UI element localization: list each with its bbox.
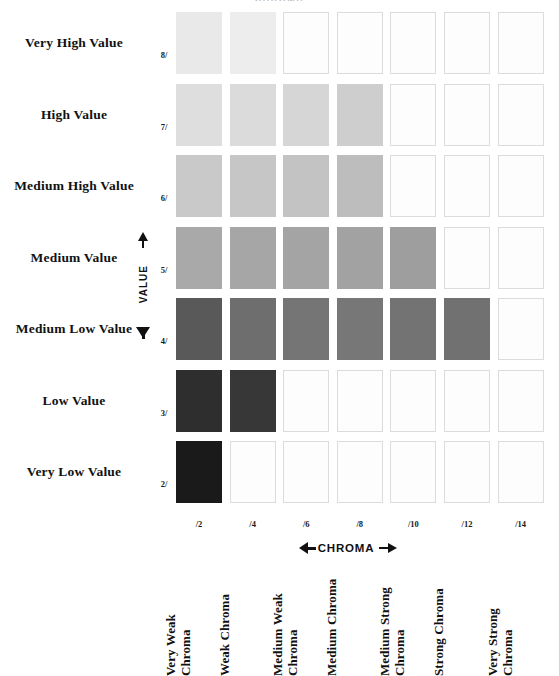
value-tick-label: 8/	[153, 51, 175, 60]
value-row-label: High Value	[0, 108, 148, 122]
value-tick-label: 5/	[153, 266, 175, 275]
value-row-label: Medium Value	[0, 251, 148, 265]
chroma-column-label: Medium Chroma	[325, 566, 371, 676]
arrow-up-icon	[138, 232, 148, 241]
color-swatch[interactable]	[498, 84, 544, 146]
value-tick-label: 2/	[153, 480, 175, 489]
color-swatch[interactable]	[176, 441, 222, 503]
value-row-label: Very High Value	[0, 36, 148, 50]
color-swatch[interactable]	[283, 298, 329, 360]
color-swatch[interactable]	[283, 227, 329, 289]
color-swatch[interactable]	[230, 441, 276, 503]
swatch-row	[176, 298, 552, 370]
chroma-column-label: Weak Chroma	[218, 566, 264, 676]
color-swatch[interactable]	[444, 12, 490, 74]
color-swatch[interactable]	[444, 155, 490, 217]
swatch-row	[176, 84, 552, 156]
color-swatch[interactable]	[498, 298, 544, 360]
color-swatch[interactable]	[444, 298, 490, 360]
color-swatch[interactable]	[390, 12, 436, 74]
chroma-tick-label: /6	[283, 519, 329, 529]
color-swatch[interactable]	[176, 370, 222, 432]
color-swatch[interactable]	[390, 155, 436, 217]
color-swatch[interactable]	[390, 298, 436, 360]
color-swatch[interactable]	[390, 84, 436, 146]
color-swatch[interactable]	[230, 370, 276, 432]
swatch-row	[176, 441, 552, 513]
color-swatch[interactable]	[176, 155, 222, 217]
value-row-label: Low Value	[0, 394, 148, 408]
color-swatch[interactable]	[390, 227, 436, 289]
value-axis-label: VALUE	[138, 265, 149, 303]
chroma-tick-label: /8	[337, 519, 383, 529]
munsell-swatch-grid	[176, 12, 552, 513]
color-swatch[interactable]	[337, 12, 383, 74]
chroma-tick-label: /12	[444, 519, 490, 529]
value-row-label: Medium High Value	[0, 179, 148, 193]
color-swatch[interactable]	[176, 12, 222, 74]
color-swatch[interactable]	[230, 298, 276, 360]
color-swatch[interactable]	[283, 12, 329, 74]
value-row-label: Very Low Value	[0, 465, 148, 479]
color-swatch[interactable]	[337, 370, 383, 432]
color-swatch[interactable]	[444, 441, 490, 503]
swatch-row	[176, 155, 552, 227]
color-swatch[interactable]	[498, 155, 544, 217]
color-swatch[interactable]	[176, 298, 222, 360]
color-swatch[interactable]	[337, 155, 383, 217]
color-swatch[interactable]	[498, 227, 544, 289]
color-swatch[interactable]	[337, 84, 383, 146]
color-swatch[interactable]	[498, 370, 544, 432]
color-swatch[interactable]	[230, 12, 276, 74]
color-swatch[interactable]	[390, 441, 436, 503]
chroma-axis-label: CHROMA	[318, 542, 375, 554]
arrow-down-icon	[136, 327, 150, 338]
arrow-right-icon	[388, 543, 397, 553]
swatch-row	[176, 370, 552, 442]
value-row-label: Medium Low Value	[0, 322, 148, 336]
chroma-tick-label: /2	[176, 519, 222, 529]
value-tick-column: 8/7/6/5/4/3/2/	[153, 10, 175, 510]
chroma-column-label: Strong Chroma	[432, 566, 478, 676]
clipped-chart-title: CHROMA	[0, 0, 559, 1]
color-swatch[interactable]	[444, 227, 490, 289]
color-swatch[interactable]	[337, 441, 383, 503]
color-swatch[interactable]	[444, 370, 490, 432]
color-swatch[interactable]	[283, 155, 329, 217]
color-swatch[interactable]	[283, 84, 329, 146]
color-swatch[interactable]	[230, 155, 276, 217]
color-swatch[interactable]	[390, 370, 436, 432]
value-tick-label: 6/	[153, 194, 175, 203]
color-swatch[interactable]	[498, 441, 544, 503]
value-tick-label: 3/	[153, 409, 175, 418]
color-swatch[interactable]	[283, 370, 329, 432]
color-swatch[interactable]	[337, 227, 383, 289]
chroma-tick-label: /14	[498, 519, 544, 529]
value-name-column: Very High ValueHigh ValueMedium High Val…	[0, 10, 148, 510]
color-swatch[interactable]	[176, 84, 222, 146]
chroma-column-label: Medium Strong Chroma	[378, 566, 424, 676]
swatch-row	[176, 227, 552, 299]
color-swatch[interactable]	[176, 227, 222, 289]
color-swatch[interactable]	[498, 12, 544, 74]
chroma-column-label: Very Weak Chroma	[164, 566, 210, 676]
color-swatch[interactable]	[444, 84, 490, 146]
color-swatch[interactable]	[230, 227, 276, 289]
color-swatch[interactable]	[283, 441, 329, 503]
chroma-column-label: Medium Weak Chroma	[271, 566, 317, 676]
value-tick-label: 4/	[153, 337, 175, 346]
color-swatch[interactable]	[337, 298, 383, 360]
swatch-row	[176, 12, 552, 84]
arrow-left-icon	[299, 542, 308, 554]
chroma-column-label: Very Strong Chroma	[486, 566, 532, 676]
value-tick-label: 7/	[153, 123, 175, 132]
color-swatch[interactable]	[230, 84, 276, 146]
chroma-tick-label: /10	[390, 519, 436, 529]
value-axis: VALUE	[132, 232, 154, 338]
chroma-name-row: Very Weak ChromaWeak ChromaMedium Weak C…	[176, 566, 552, 676]
chroma-tick-label: /4	[230, 519, 276, 529]
chroma-axis: CHROMA	[258, 540, 438, 556]
chroma-tick-row: /2/4/6/8/10/12/14	[176, 519, 552, 533]
